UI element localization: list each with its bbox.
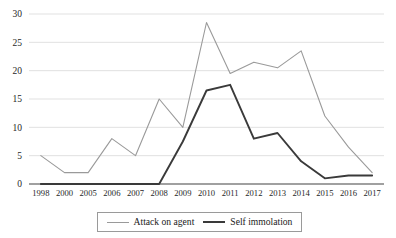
y-axis-tick-label: 10 — [13, 123, 23, 133]
x-axis-tick-label: 2009 — [174, 188, 191, 198]
legend-swatch-self-immolation — [203, 221, 225, 223]
legend-label-self-immolation: Self immolation — [230, 217, 292, 227]
y-axis-tick-label: 20 — [13, 66, 23, 76]
x-axis-tick-label: 2005 — [80, 188, 97, 198]
x-axis-tick-label: 2014 — [293, 188, 311, 198]
x-axis-tick-label: 2015 — [316, 188, 333, 198]
y-axis-tick-label: 25 — [13, 38, 23, 48]
chart-svg: 051015202530 199820002005200620072008200… — [0, 0, 396, 200]
legend-item-self-immolation: Self immolation — [203, 217, 292, 227]
chart-plot-area: 051015202530 199820002005200620072008200… — [0, 0, 396, 200]
x-axis-tick-label: 2007 — [127, 188, 145, 198]
x-axis-tick-label: 2017 — [364, 188, 382, 198]
x-axis-tick-label: 2008 — [151, 188, 168, 198]
gridlines — [29, 14, 384, 184]
y-axis-tick-label: 15 — [13, 94, 23, 104]
legend-item-attack-on-agent: Attack on agent — [107, 217, 195, 227]
y-axis-tick-label: 0 — [17, 179, 22, 189]
x-axis-tick-label: 2006 — [103, 188, 121, 198]
x-axis-tick-label: 2010 — [198, 188, 215, 198]
x-axis-tick-label: 2000 — [56, 188, 73, 198]
chart-legend: Attack on agent Self immolation — [97, 212, 302, 232]
x-axis-tick-label: 1998 — [32, 188, 49, 198]
series-line-attack-on-agent — [41, 23, 372, 173]
legend-swatch-attack-on-agent — [107, 222, 129, 223]
line-chart: 051015202530 199820002005200620072008200… — [0, 0, 396, 238]
x-axis-tick-label: 2016 — [340, 188, 358, 198]
x-axis-tick-label: 2013 — [269, 188, 286, 198]
legend-label-attack-on-agent: Attack on agent — [134, 217, 195, 227]
y-axis-tick-label: 30 — [13, 9, 23, 19]
y-axis-tick-labels: 051015202530 — [13, 9, 23, 189]
x-axis-tick-label: 2012 — [245, 188, 262, 198]
x-axis-tick-labels: 1998200020052006200720082009201020112012… — [32, 188, 381, 198]
series-lines — [41, 23, 372, 185]
x-axis-tick-label: 2011 — [222, 188, 239, 198]
y-axis-tick-label: 5 — [17, 151, 22, 161]
